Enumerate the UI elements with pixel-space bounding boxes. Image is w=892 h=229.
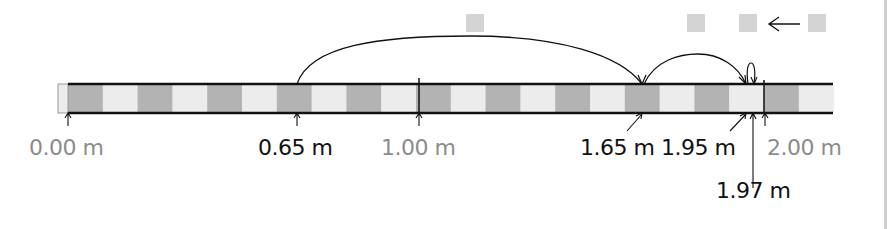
jump-arc-0.65-1.65 xyxy=(297,36,642,84)
jump-arc-1.65-1.95 xyxy=(644,54,746,84)
bar-segment xyxy=(486,85,521,112)
bar-segment xyxy=(242,85,277,112)
pointer-1.95 xyxy=(730,113,746,131)
bar-segment xyxy=(520,85,555,112)
bar-segment xyxy=(416,85,451,112)
jump-arc-1.95-1.97 xyxy=(747,63,755,84)
bar-segment xyxy=(138,85,173,112)
label-1.00: 1.00 m xyxy=(381,136,455,160)
number-line-diagram: 0.00 m 0.65 m 1.00 m 1.65 m 1.95 m 2.00 … xyxy=(0,0,892,229)
pointer-0.65 xyxy=(294,113,300,126)
bar-start-cap xyxy=(58,84,68,113)
pointer-2.00 xyxy=(762,113,768,126)
label-0.00: 0.00 m xyxy=(29,136,103,160)
left-arrow-icon xyxy=(769,17,800,31)
pointer-0.00 xyxy=(65,113,71,126)
pointer-1.65 xyxy=(627,113,642,131)
bar-segment xyxy=(660,85,695,112)
answer-box-jump-2[interactable] xyxy=(739,14,757,32)
answer-box-jump-1[interactable] xyxy=(466,14,484,32)
bar-segment xyxy=(312,85,347,112)
bar-segment xyxy=(451,85,486,112)
bar-segment xyxy=(694,85,729,112)
label-2.00: 2.00 m xyxy=(767,136,841,160)
bar-segment xyxy=(764,85,799,112)
page-edge-divider xyxy=(884,0,887,229)
bar-segment xyxy=(625,85,660,112)
bar-segment xyxy=(277,85,312,112)
bar-segment xyxy=(729,85,764,112)
label-1.97: 1.97 m xyxy=(716,179,790,203)
bar-segment xyxy=(103,85,138,112)
bar-segment xyxy=(207,85,242,112)
pointer-1.00 xyxy=(416,113,422,126)
bar-segment xyxy=(555,85,590,112)
bar-segment xyxy=(381,85,416,112)
bar-segment xyxy=(799,85,834,112)
answer-box-jump-3[interactable] xyxy=(687,14,705,32)
answer-box-total[interactable] xyxy=(808,14,826,32)
bar-segment xyxy=(346,85,381,112)
label-1.65: 1.65 m xyxy=(580,136,654,160)
bar-segment xyxy=(172,85,207,112)
bar-segment xyxy=(68,85,103,112)
pointer-1.97 xyxy=(750,113,756,188)
bar-segments xyxy=(68,85,834,112)
label-1.95: 1.95 m xyxy=(661,136,735,160)
bar-segment xyxy=(590,85,625,112)
label-0.65: 0.65 m xyxy=(258,136,332,160)
